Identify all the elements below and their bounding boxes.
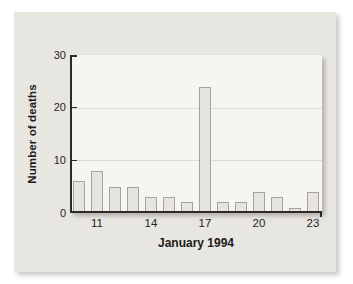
figure-panel: Number of deaths 0102030 1114172023 Janu…: [14, 12, 336, 272]
bar-jan-17: [199, 87, 211, 211]
bar-jan-14: [145, 197, 157, 211]
y-tick-mark-10: [70, 160, 77, 162]
gridline-10: [71, 160, 322, 161]
bar-jan-15: [163, 197, 175, 211]
plot-area: [70, 55, 322, 213]
bar-jan-11: [91, 171, 103, 211]
y-axis-line: [70, 55, 72, 213]
x-tick-label-11: 11: [84, 217, 110, 229]
bar-jan-23: [307, 192, 319, 211]
y-tick-label-10: 10: [42, 154, 66, 167]
x-axis-title: January 1994: [70, 236, 322, 250]
bar-jan-12: [109, 187, 121, 211]
bar-jan-19: [235, 202, 247, 211]
bar-jan-20: [253, 192, 265, 211]
y-tick-mark-30: [70, 55, 77, 57]
bar-jan-13: [127, 187, 139, 211]
y-tick-label-0: 0: [42, 207, 66, 220]
x-tick-label-14: 14: [138, 217, 164, 229]
bar-jan-16: [181, 202, 193, 211]
x-tick-label-23: 23: [300, 217, 326, 229]
bar-jan-21: [271, 197, 283, 211]
x-tick-label-17: 17: [192, 217, 218, 229]
y-axis-title-box: Number of deaths: [19, 55, 45, 213]
y-tick-mark-20: [70, 107, 77, 109]
y-tick-label-20: 20: [42, 101, 66, 114]
bar-jan-10: [73, 181, 85, 211]
gridline-20: [71, 108, 322, 109]
y-axis-title: Number of deaths: [26, 84, 38, 183]
x-axis-line: [70, 211, 322, 213]
y-tick-label-30: 30: [42, 49, 66, 62]
x-tick-label-20: 20: [246, 217, 272, 229]
bar-jan-18: [217, 202, 229, 211]
